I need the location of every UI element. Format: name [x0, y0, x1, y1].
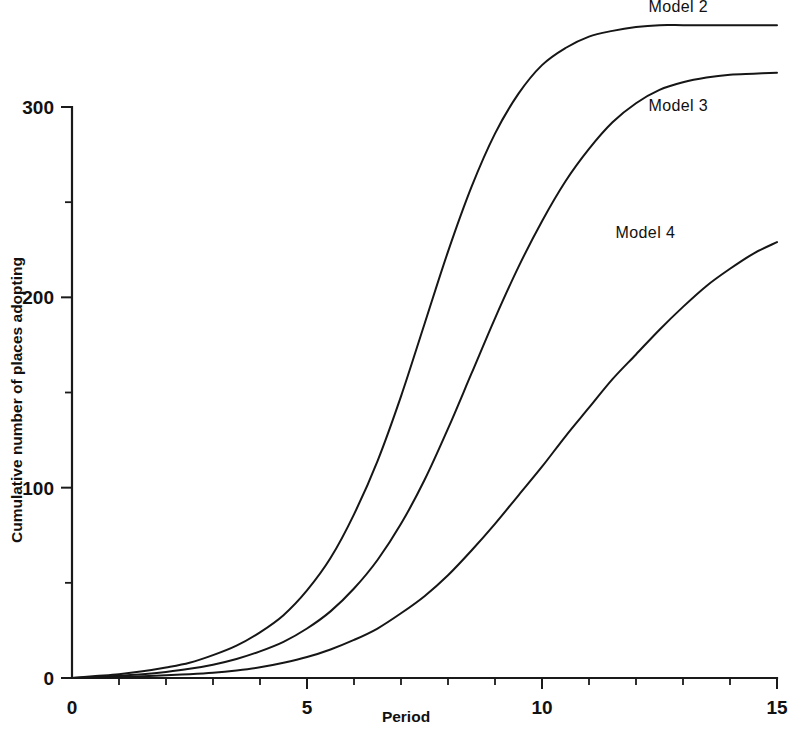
y-tick-label: 0	[43, 668, 54, 689]
x-tick-label: 10	[531, 697, 552, 718]
series-label-model-4: Model 4	[616, 224, 676, 241]
chart-container: 0100200300 051015 Model 2Model 3Model 4 …	[0, 0, 791, 741]
y-tick-label: 200	[22, 287, 54, 308]
y-tick-label: 300	[22, 97, 54, 118]
series-label-model-2: Model 2	[648, 0, 708, 15]
x-tick-label: 5	[302, 697, 313, 718]
series-labels: Model 2Model 3Model 4	[616, 0, 709, 241]
series-curve-model-2	[72, 25, 777, 678]
axes	[72, 107, 777, 678]
series-curve-model-4	[72, 242, 777, 678]
y-axis-tick-labels: 0100200300	[22, 97, 54, 689]
data-series-curves	[72, 25, 777, 678]
line-chart: 0100200300 051015 Model 2Model 3Model 4 …	[0, 0, 791, 741]
x-tick-label: 0	[67, 697, 78, 718]
series-label-model-3: Model 3	[648, 97, 708, 114]
x-axis-title: Period	[382, 708, 430, 725]
y-tick-label: 100	[22, 478, 54, 499]
y-axis-title: Cumulative number of places adopting	[8, 257, 25, 543]
axis-ticks	[61, 107, 777, 689]
x-tick-label: 15	[766, 697, 788, 718]
series-curve-model-3	[72, 73, 777, 678]
